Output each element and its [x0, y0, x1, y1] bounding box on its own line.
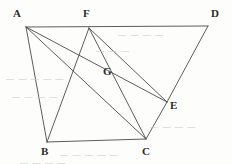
vertex-label-a: A [13, 8, 21, 19]
segment-ae [26, 27, 167, 102]
edge-layer [26, 26, 208, 142]
vertex-label-e: E [170, 100, 177, 111]
vertex-label-d: D [211, 8, 219, 19]
segment-ad [26, 26, 208, 27]
segment-ed [167, 26, 208, 102]
vertex-label-f: F [83, 8, 90, 19]
segment-fc [89, 28, 146, 139]
segment-ac [26, 27, 146, 139]
segment-fe [89, 28, 167, 102]
figure-canvas [0, 0, 232, 164]
geometry-figure: — — — —— — —— — — — —— — — —— — — —— — —… [0, 0, 232, 164]
vertex-label-g: G [103, 66, 112, 77]
segment-bc [47, 139, 146, 142]
segment-ce [146, 102, 167, 139]
vertex-label-b: B [41, 146, 48, 157]
segment-fb [47, 28, 89, 142]
vertex-label-c: C [142, 146, 150, 157]
